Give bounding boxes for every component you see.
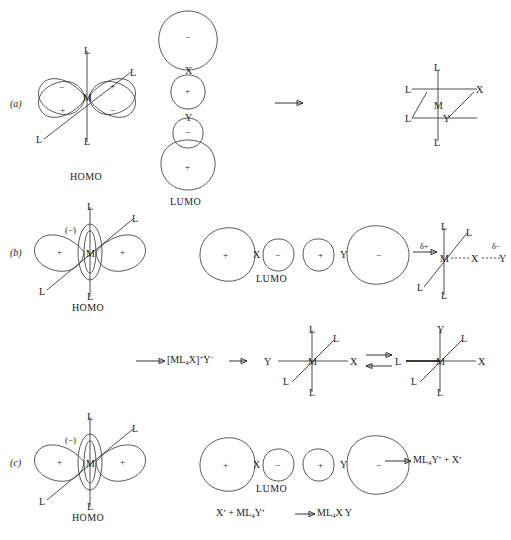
beq-product-rest: X Y	[336, 507, 353, 518]
bottom-equation-left: X• + ML4Y•	[216, 508, 265, 520]
bottom-equation-right: ML4X Y	[317, 508, 352, 520]
beq-ml4y-radical: •	[262, 507, 264, 515]
beq-ml4y: ML	[236, 507, 251, 518]
bottom-equation-arrow-c	[0, 0, 511, 540]
beq-product: ML	[317, 507, 332, 518]
orbital-mechanism-figure: (a) L L L L M − + + − HOMO X Y − + − + L…	[0, 0, 511, 540]
beq-plus: +	[226, 507, 237, 518]
beq-ml4y-rest: Y	[255, 507, 262, 518]
